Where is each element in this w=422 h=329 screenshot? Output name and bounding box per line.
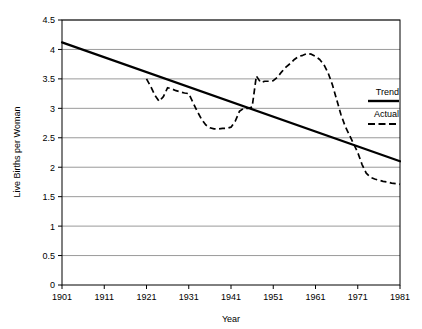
y-axis-tick-label: 4.5 xyxy=(42,15,55,25)
x-axis-tick-label: 1911 xyxy=(95,292,114,302)
y-axis-title: Live Births per Woman xyxy=(12,107,22,198)
legend-label-actual: Actual xyxy=(374,109,399,119)
x-axis-tick-label: 1951 xyxy=(263,292,283,302)
legend-label-trend: Trend xyxy=(376,87,399,97)
x-axis-tick-label: 1921 xyxy=(136,292,156,302)
x-axis-tick-label: 1961 xyxy=(305,292,325,302)
y-axis-tick-label: 1 xyxy=(50,222,55,232)
series-line-actual xyxy=(147,54,401,185)
chart-legend: Trend Actual xyxy=(368,87,399,124)
y-axis-tick-label: 3.5 xyxy=(42,74,55,84)
y-axis-tick-label: 3 xyxy=(50,104,55,114)
x-axis-title: Year xyxy=(222,314,240,324)
y-axis-tick-label: 2.5 xyxy=(42,133,55,143)
x-axis-tick-label: 1971 xyxy=(348,292,368,302)
series-line-trend xyxy=(62,42,400,161)
chart-container: 00.511.522.533.544.5 1901191119211931194… xyxy=(0,0,422,329)
y-axis-tick-label: 1.5 xyxy=(42,192,55,202)
line-chart: 00.511.522.533.544.5 1901191119211931194… xyxy=(0,0,422,329)
gridlines xyxy=(62,20,400,256)
y-axis-tick-label: 0.5 xyxy=(42,251,55,261)
x-axis-tick-label: 1931 xyxy=(179,292,199,302)
y-axis-tick-label: 2 xyxy=(50,163,55,173)
x-axis-tick-label: 1981 xyxy=(390,292,410,302)
y-axis-tick-labels: 00.511.522.533.544.5 xyxy=(42,15,62,290)
x-axis-tick-labels: 190119111921193119411951196119711981 xyxy=(52,285,410,302)
x-axis-tick-label: 1901 xyxy=(52,292,72,302)
y-axis-tick-label: 4 xyxy=(50,45,55,55)
y-axis-tick-label: 0 xyxy=(50,280,55,290)
x-axis-tick-label: 1941 xyxy=(221,292,241,302)
